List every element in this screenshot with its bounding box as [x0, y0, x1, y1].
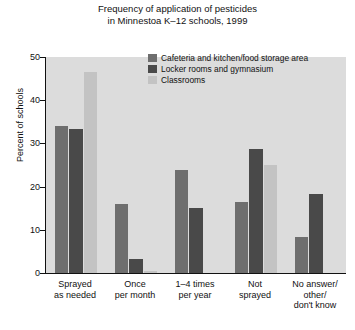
chart-legend: Cafeteria and kitchen/food storage area … — [148, 53, 308, 86]
legend-item-0: Cafeteria and kitchen/food storage area — [148, 53, 308, 64]
y-tick-label: 40 — [14, 95, 40, 105]
legend-item-1: Locker rooms and gymnasium — [148, 64, 308, 75]
legend-label-2: Classrooms — [161, 75, 205, 86]
bar-group — [55, 57, 97, 273]
y-tick-mark — [40, 100, 46, 101]
bar-1-1 — [129, 259, 143, 273]
bar-group — [295, 57, 337, 273]
legend-label-0: Cafeteria and kitchen/food storage area — [161, 53, 308, 64]
bar-group — [235, 57, 277, 273]
x-axis-label-line: other/ — [275, 290, 355, 301]
y-tick-mark — [40, 187, 46, 188]
bar-0-3 — [235, 202, 249, 273]
legend-label-1: Locker rooms and gymnasium — [161, 64, 273, 75]
y-axis-label: Percent of schools — [15, 65, 25, 185]
bar-chart: Frequency of application of pesticides i… — [0, 0, 355, 330]
legend-swatch-icon-2 — [148, 76, 157, 84]
legend-swatch-icon-0 — [148, 54, 157, 62]
y-tick-mark — [40, 143, 46, 144]
bar-0-4 — [295, 237, 309, 273]
y-tick-label: 50 — [14, 52, 40, 62]
bar-2-0 — [84, 72, 98, 273]
y-tick-label: 20 — [14, 182, 40, 192]
x-axis-label-line: don't know — [275, 300, 355, 311]
x-axis-label-line: No answer/ — [275, 279, 355, 290]
y-tick-label: 10 — [14, 225, 40, 235]
chart-title-line-1: Frequency of application of pesticides — [0, 3, 355, 15]
x-axis-label-4: No answer/other/don't know — [275, 279, 355, 311]
plot-inner: 01020304050 — [46, 57, 346, 273]
legend-item-2: Classrooms — [148, 75, 308, 86]
bar-2-1 — [144, 271, 158, 273]
bar-group — [175, 57, 217, 273]
y-tick-mark — [40, 273, 46, 274]
y-tick-mark — [40, 57, 46, 58]
bar-1-3 — [249, 149, 263, 273]
y-tick-label: 0 — [14, 268, 40, 278]
bar-0-1 — [115, 204, 129, 273]
bar-2-3 — [264, 165, 278, 273]
legend-swatch-icon-1 — [148, 65, 157, 73]
bar-1-0 — [69, 129, 83, 273]
plot-area: 01020304050 — [45, 57, 346, 274]
chart-title-line-2: in Minnestoa K–12 schools, 1999 — [0, 15, 355, 27]
y-tick-mark — [40, 230, 46, 231]
bar-1-4 — [309, 194, 323, 273]
bar-0-0 — [55, 126, 69, 273]
bar-0-2 — [175, 170, 189, 273]
bar-1-2 — [189, 208, 203, 273]
chart-title: Frequency of application of pesticides i… — [0, 3, 355, 26]
y-tick-label: 30 — [14, 138, 40, 148]
bar-group — [115, 57, 157, 273]
